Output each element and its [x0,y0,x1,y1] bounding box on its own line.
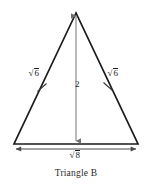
radical-glyph-base: √ [70,150,75,160]
left-side-length-label: √6 [28,68,39,78]
radicand-right: 6 [113,68,119,78]
radical-glyph-right: √ [108,68,113,78]
radical-symbol-base: √8 [69,150,80,160]
radicand-left: 6 [34,68,40,78]
triangle-figure: √6 √6 2 √8 Triangle B [0,0,152,188]
radical-symbol-left: √6 [28,68,39,78]
figure-caption: Triangle B [0,168,152,178]
radical-symbol-right: √6 [107,68,118,78]
base-length-label: √8 [69,150,80,160]
right-side-length-label: √6 [107,68,118,78]
height-length-label: 2 [75,80,80,89]
radicand-base: 8 [75,150,81,160]
radical-glyph-left: √ [29,68,34,78]
